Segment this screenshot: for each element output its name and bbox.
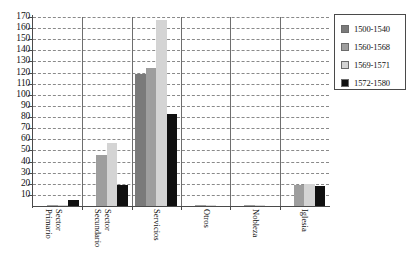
x-axis-category-label: Otros bbox=[201, 209, 211, 272]
bar-group bbox=[33, 17, 82, 206]
bar-group bbox=[82, 17, 131, 206]
bar bbox=[68, 200, 79, 206]
y-axis-tick bbox=[28, 28, 33, 29]
legend-swatch-icon bbox=[341, 25, 349, 33]
y-axis-tick-label: 70 bbox=[2, 123, 30, 132]
y-axis-tick bbox=[28, 117, 33, 118]
bar bbox=[107, 143, 118, 206]
x-axis-category-label: Nobleza bbox=[251, 209, 261, 272]
bar bbox=[294, 185, 305, 206]
chart-legend: 1500-15401560-15681569-15711572-1580 bbox=[334, 14, 406, 90]
y-axis-tick-label: 90 bbox=[2, 101, 30, 110]
bar-group bbox=[181, 17, 230, 206]
y-axis-tick-label: 110 bbox=[2, 79, 30, 88]
x-axis-category-label: Sector Primario bbox=[44, 209, 63, 272]
y-axis-tick-label: 40 bbox=[2, 157, 30, 166]
bar bbox=[47, 205, 58, 206]
y-axis-tick-label: 10 bbox=[2, 190, 30, 199]
y-axis-tick bbox=[28, 162, 33, 163]
x-axis-category-label: Sector Secundario bbox=[93, 209, 112, 272]
legend-swatch-icon bbox=[341, 79, 349, 87]
y-axis-tick bbox=[28, 17, 33, 18]
x-axis-category-label: Iglesia bbox=[300, 209, 310, 272]
legend-swatch-icon bbox=[341, 61, 349, 69]
y-axis-tick bbox=[28, 106, 33, 107]
y-axis-tick bbox=[28, 139, 33, 140]
legend-item[interactable]: 1560-1568 bbox=[341, 38, 405, 56]
y-axis-tick-label: 140 bbox=[2, 45, 30, 54]
bar-chart: 1701601501401301201101009080706050403020… bbox=[0, 0, 409, 272]
bar bbox=[195, 205, 206, 206]
y-axis-tick bbox=[28, 61, 33, 62]
y-axis-tick bbox=[28, 184, 33, 185]
legend-item[interactable]: 1500-1540 bbox=[341, 20, 405, 38]
bar bbox=[167, 114, 178, 206]
bar-group bbox=[132, 17, 181, 206]
bar bbox=[315, 186, 326, 206]
y-axis-tick-label: 50 bbox=[2, 145, 30, 154]
bar-group bbox=[230, 17, 279, 206]
y-axis-tick bbox=[28, 73, 33, 74]
legend-item-label: 1572-1580 bbox=[354, 79, 390, 88]
y-axis-tick-label: 60 bbox=[2, 134, 30, 143]
x-axis-tick bbox=[132, 206, 133, 210]
bar bbox=[96, 155, 107, 206]
y-axis-tick bbox=[28, 173, 33, 174]
bar bbox=[206, 205, 217, 206]
bar bbox=[58, 205, 69, 206]
y-axis-tick bbox=[28, 39, 33, 40]
y-axis-tick bbox=[28, 195, 33, 196]
y-axis-tick-label: 160 bbox=[2, 23, 30, 32]
x-axis-tick bbox=[230, 206, 231, 210]
y-axis-tick-label: 100 bbox=[2, 90, 30, 99]
legend-item-label: 1500-1540 bbox=[354, 25, 390, 34]
y-axis-tick bbox=[28, 150, 33, 151]
y-axis-tick bbox=[28, 128, 33, 129]
x-axis-tick bbox=[280, 206, 281, 210]
bar bbox=[135, 74, 146, 206]
y-axis-tick-label: 120 bbox=[2, 68, 30, 77]
bar bbox=[146, 68, 157, 206]
x-axis-tick bbox=[181, 206, 182, 210]
y-axis-tick-label: 150 bbox=[2, 34, 30, 43]
bar bbox=[117, 185, 128, 206]
bar bbox=[304, 184, 315, 206]
y-axis-tick-label: 80 bbox=[2, 112, 30, 121]
bar-group bbox=[280, 17, 329, 206]
y-axis-tick bbox=[28, 50, 33, 51]
legend-item[interactable]: 1569-1571 bbox=[341, 56, 405, 74]
y-axis-tick-label: 170 bbox=[2, 12, 30, 21]
plot-area bbox=[33, 17, 329, 206]
bar bbox=[255, 205, 266, 206]
legend-item-label: 1569-1571 bbox=[354, 61, 390, 70]
bar bbox=[244, 205, 255, 206]
bar bbox=[156, 20, 167, 206]
legend-item[interactable]: 1572-1580 bbox=[341, 74, 405, 92]
y-axis-tick-label: 130 bbox=[2, 56, 30, 65]
y-axis-tick-label: 20 bbox=[2, 179, 30, 188]
y-axis-tick bbox=[28, 95, 33, 96]
x-axis-category-label: Servicios bbox=[152, 209, 162, 272]
legend-item-label: 1560-1568 bbox=[354, 43, 390, 52]
y-axis-labels: 1701601501401301201101009080706050403020… bbox=[0, 0, 30, 206]
legend-swatch-icon bbox=[341, 43, 349, 51]
x-axis-tick bbox=[82, 206, 83, 210]
y-axis-tick bbox=[28, 84, 33, 85]
y-axis-tick-label: 30 bbox=[2, 168, 30, 177]
